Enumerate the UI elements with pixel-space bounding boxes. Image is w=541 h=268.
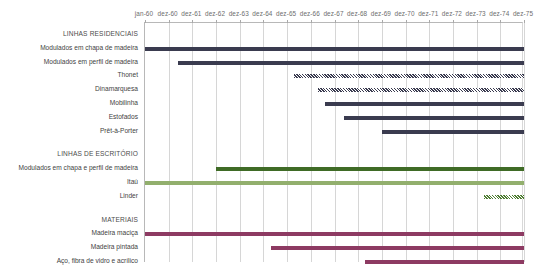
axis-tickmark [240,20,241,23]
gridline [287,23,288,262]
gantt-bar [294,74,524,78]
gridline [500,23,501,262]
gridline [335,23,336,262]
axis-tick-label-dez-65: dez-65 [276,8,296,20]
axis-tickmark [287,20,288,23]
gantt-chart: jan-60dez-60dez-61dez-62dez-63dez-64dez-… [0,0,541,268]
row-label: Itaú [127,178,138,186]
gridline [169,23,170,262]
row-label: Prêt-à-Porter [100,127,138,135]
axis-tick-label-dez-69: dez-69 [371,8,391,20]
gridline [429,23,430,262]
axis-tickmark [192,20,193,23]
gantt-bar [178,61,524,65]
gridline [240,23,241,262]
axis-tick-label-dez-66: dez-66 [300,8,320,20]
axis-tickmark [311,20,312,23]
axis-tickmark [358,20,359,23]
row-label: Aço, fibra de vidro e acrílico [57,257,138,265]
axis-tick-label-jan-60: jan-60 [135,8,153,20]
axis-tickmark [500,20,501,23]
axis-tickmark [429,20,430,23]
axis-tickmark [406,20,407,23]
gantt-bar [318,88,524,92]
axis-tick-label-dez-74: dez-74 [489,8,509,20]
section-header-1: LINHAS DE ESCRITÓRIO [57,150,138,158]
axis-tick-label-dez-73: dez-73 [466,8,486,20]
axis-tick-label-dez-60: dez-60 [158,8,178,20]
section-header-0: LINHAS RESIDENCIAIS [63,30,138,38]
row-label: Thonet [117,71,138,79]
axis-tickmark [477,20,478,23]
row-label: Modulados em perfil de madeira [44,58,138,66]
axis-tickmark [145,20,146,23]
axis-tick-label-dez-63: dez-63 [229,8,249,20]
y-axis-category-labels: LINHAS RESIDENCIAISModulados em chapa de… [0,22,142,262]
axis-tick-label-dez-61: dez-61 [181,8,201,20]
section-header-2: MATERIAIS [102,216,138,224]
axis-tick-label-dez-67: dez-67 [323,8,343,20]
gantt-bar [365,260,524,264]
gantt-bar [145,232,524,236]
gridline [406,23,407,262]
axis-tickmark [169,20,170,23]
row-label: Modulados em chapa e perfil de madeira [19,164,139,172]
gridline [477,23,478,262]
gantt-bar [145,47,524,51]
row-label: Dinamarquesa [95,85,138,93]
row-label: Modulados em chapa de madeira [40,44,138,52]
axis-tickmark [216,20,217,23]
gridline [311,23,312,262]
axis-tickmark [453,20,454,23]
axis-tickmark [263,20,264,23]
gantt-bar [484,195,524,199]
axis-tick-label-dez-62: dez-62 [205,8,225,20]
gridline [358,23,359,262]
axis-tickmark [382,20,383,23]
row-label: Linder [120,192,138,200]
gridline [263,23,264,262]
row-label: Estofados [109,113,138,121]
gantt-bar [216,167,524,171]
gridline [453,23,454,262]
axis-tickmark [524,20,525,23]
gantt-bar [325,102,524,106]
gantt-bar [271,246,524,250]
gantt-bar [344,116,524,120]
axis-tick-label-dez-72: dez-72 [442,8,462,20]
axis-tick-label-dez-68: dez-68 [347,8,367,20]
axis-tick-label-dez-70: dez-70 [394,8,414,20]
row-label: Mobilinha [110,99,138,107]
x-axis-tick-labels: jan-60dez-60dez-61dez-62dez-63dez-64dez-… [0,8,541,20]
axis-tick-label-dez-64: dez-64 [252,8,272,20]
axis-tickmark [335,20,336,23]
plot-area [144,22,523,262]
row-label: Madeira maciça [91,229,138,237]
gridline [216,23,217,262]
axis-tick-label-dez-75: dez-75 [513,8,533,20]
axis-tick-label-dez-71: dez-71 [418,8,438,20]
row-label: Madeira pintada [91,243,138,251]
gantt-bar [145,181,524,185]
gridline [524,23,525,262]
gantt-bar [382,130,524,134]
gridline [192,23,193,262]
gridline [382,23,383,262]
